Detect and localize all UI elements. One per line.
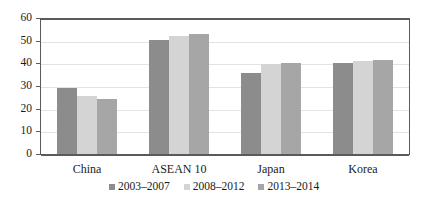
y-tick-label: 60 xyxy=(21,12,33,24)
y-axis: 6050403020100 xyxy=(0,18,36,155)
bar-group xyxy=(317,19,409,154)
legend-label: 2008–2012 xyxy=(193,181,245,193)
y-tick-label: 40 xyxy=(21,58,33,70)
bar-group xyxy=(41,19,133,154)
bar xyxy=(281,63,301,154)
bar xyxy=(97,99,117,154)
y-tick-label: 10 xyxy=(21,126,33,138)
x-axis-labels: ChinaASEAN 10JapanKorea xyxy=(41,160,409,178)
y-tick-mark xyxy=(36,154,40,155)
bar xyxy=(241,73,261,154)
bar xyxy=(149,40,169,154)
bar xyxy=(373,60,393,154)
y-tick-label: 50 xyxy=(21,35,33,47)
y-tick-label: 0 xyxy=(26,148,32,160)
bar-group xyxy=(225,19,317,154)
legend: 2003–20072008–20122013–2014 xyxy=(0,181,428,193)
x-axis-label: Korea xyxy=(317,160,409,178)
bar xyxy=(333,63,353,154)
bar-groups xyxy=(41,19,409,154)
legend-item[interactable]: 2013–2014 xyxy=(258,181,319,193)
legend-item[interactable]: 2008–2012 xyxy=(184,181,245,193)
y-tick-mark xyxy=(36,86,40,87)
bar xyxy=(261,64,281,154)
legend-label: 2013–2014 xyxy=(267,181,319,193)
bar xyxy=(57,88,77,154)
y-tick-label: 30 xyxy=(21,80,33,92)
bar xyxy=(189,34,209,154)
y-tick-mark xyxy=(36,18,40,19)
bar-chart: 6050403020100 ChinaASEAN 10JapanKorea 20… xyxy=(0,0,428,204)
x-axis-label: ASEAN 10 xyxy=(133,160,225,178)
bar xyxy=(169,36,189,154)
x-axis-label: China xyxy=(41,160,133,178)
legend-item[interactable]: 2003–2007 xyxy=(109,181,170,193)
gridline-0 xyxy=(41,155,409,156)
legend-swatch-icon xyxy=(184,184,190,190)
x-axis-label: Japan xyxy=(225,160,317,178)
y-tick-mark xyxy=(36,41,40,42)
y-tick-mark xyxy=(36,131,40,132)
legend-label: 2003–2007 xyxy=(118,181,170,193)
legend-swatch-icon xyxy=(109,184,115,190)
y-tick-label: 20 xyxy=(21,103,33,115)
y-tick-mark xyxy=(36,63,40,64)
bar xyxy=(77,96,97,155)
legend-swatch-icon xyxy=(258,184,264,190)
y-tick-mark xyxy=(36,109,40,110)
bar-group xyxy=(133,19,225,154)
bar xyxy=(353,61,373,154)
